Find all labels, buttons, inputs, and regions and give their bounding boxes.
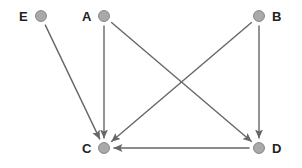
node-label: A [82, 9, 92, 24]
node-label: B [272, 9, 281, 24]
node-circle [99, 143, 110, 154]
node-label: C [82, 141, 92, 156]
node-circle [99, 11, 110, 22]
node-label: D [272, 141, 281, 156]
node-c: C [82, 141, 110, 156]
node-d: D [254, 141, 282, 156]
node-a: A [82, 9, 110, 24]
node-circle [254, 143, 265, 154]
graph-canvas: EABCD [0, 0, 302, 168]
node-circle [36, 11, 47, 22]
edge-e-to-c [45, 25, 100, 140]
node-label: E [19, 9, 28, 24]
graph-diagram: EABCD [0, 0, 302, 168]
node-e: E [19, 9, 47, 24]
node-circle [254, 11, 265, 22]
node-b: B [254, 9, 282, 24]
